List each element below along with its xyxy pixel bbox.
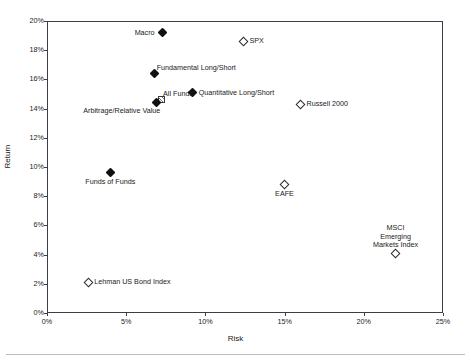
data-point-label: Arbitrage/Relative Value: [83, 107, 160, 115]
page-divider: [6, 354, 465, 355]
data-point-label: All Funds: [163, 90, 193, 98]
data-point-label: Funds of Funds: [85, 178, 135, 186]
y-axis-title: Return: [3, 127, 12, 187]
x-tick-label: 10%: [185, 318, 225, 326]
data-point-label: EAFE: [275, 190, 294, 198]
scatter-chart: 0%2%4%6%8%10%12%14%16%18%20% 0%5%10%15%2…: [0, 0, 471, 362]
x-tick-mark: [47, 313, 48, 316]
x-tick-mark: [126, 313, 127, 316]
x-tick-mark: [443, 313, 444, 316]
x-axis-ticks: 0%5%10%15%20%25%: [0, 0, 471, 362]
x-axis-title: Risk: [0, 334, 471, 343]
x-tick-label: 20%: [344, 318, 384, 326]
x-tick-label: 15%: [265, 318, 305, 326]
x-tick-label: 25%: [423, 318, 463, 326]
x-tick-label: 0%: [27, 318, 67, 326]
data-point-label: MSCIEmergingMarkets Index: [373, 224, 418, 249]
x-tick-mark: [205, 313, 206, 316]
data-point-label: SPX: [249, 37, 263, 45]
data-point-label: Russell 2000: [306, 100, 348, 108]
x-tick-mark: [285, 313, 286, 316]
data-point-label: Fundamental Long/Short: [157, 64, 236, 72]
x-tick-label: 5%: [106, 318, 146, 326]
data-point-label: Macro: [135, 29, 155, 37]
data-point-label: Lehman US Bond Index: [94, 278, 170, 286]
data-point-label: Quantitative Long/Short: [199, 89, 275, 97]
x-tick-mark: [364, 313, 365, 316]
